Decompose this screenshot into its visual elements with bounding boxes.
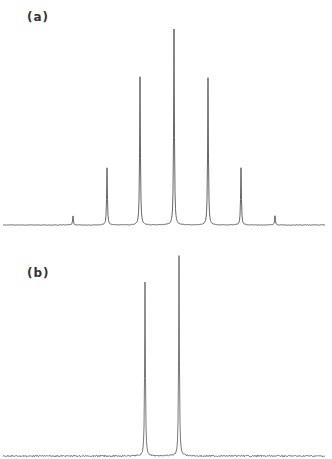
spectrum-trace-b: [3, 256, 325, 457]
spectra-plot: [0, 0, 332, 459]
spectrum-trace-a: [3, 29, 325, 225]
